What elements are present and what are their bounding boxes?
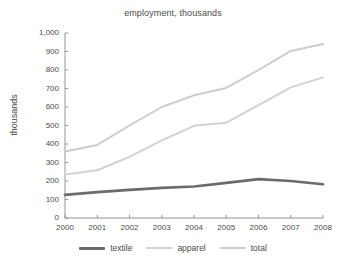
legend-swatch-total <box>220 247 246 249</box>
series-line-textile <box>65 179 323 195</box>
legend-swatch-textile <box>79 247 105 250</box>
legend-item-textile[interactable]: textile <box>79 243 132 253</box>
series-line-total <box>65 44 323 151</box>
legend-swatch-apparel <box>146 247 172 249</box>
legend-item-total[interactable]: total <box>220 243 267 253</box>
chart-container: employment, thousands thousands 01002003… <box>0 0 346 269</box>
legend-label-textile: textile <box>110 243 132 253</box>
chart-legend: textileappareltotal <box>0 243 346 253</box>
series-line-apparel <box>65 77 323 174</box>
legend-item-apparel[interactable]: apparel <box>146 243 205 253</box>
legend-label-apparel: apparel <box>177 243 205 253</box>
plot-area <box>0 0 346 269</box>
legend-label-total: total <box>251 243 267 253</box>
